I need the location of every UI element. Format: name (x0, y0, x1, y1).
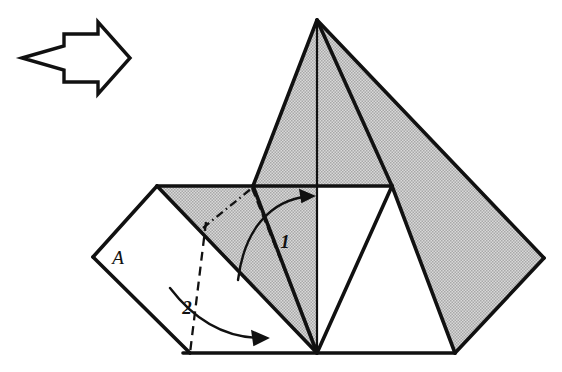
label-flap-a: A (110, 247, 124, 268)
label-fold-two: 2 (181, 297, 192, 318)
label-fold-one: 1 (280, 231, 290, 252)
origami-diagram-root: A 1 2 (0, 0, 562, 372)
origami-figure: A 1 2 (0, 0, 562, 372)
